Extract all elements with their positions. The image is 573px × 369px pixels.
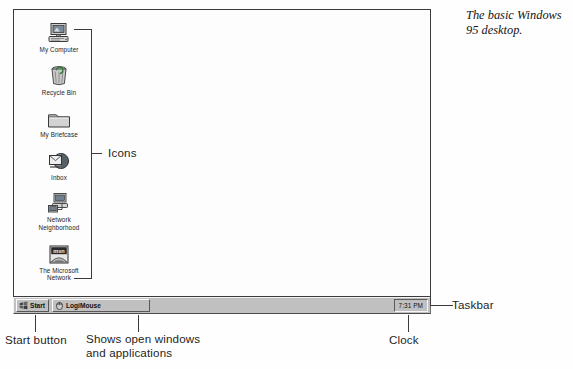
annotation-task-area: Shows open windows and applications — [86, 332, 200, 359]
leader-clock — [408, 315, 409, 332]
task-button-logimouse[interactable]: LogiMouse — [52, 299, 150, 312]
task-button-label: LogiMouse — [66, 302, 101, 309]
annotation-start-button: Start button — [5, 333, 67, 347]
leader-task-area — [138, 315, 139, 332]
icons-callout-tick — [91, 153, 102, 154]
annotation-taskbar: Taskbar — [452, 298, 494, 312]
start-button[interactable]: Start — [16, 299, 49, 312]
start-button-label: Start — [30, 302, 45, 309]
windows-desktop: My Computer Recycle Bin — [13, 9, 431, 297]
svg-text:msn: msn — [53, 248, 65, 254]
annotation-clock: Clock — [389, 333, 419, 347]
taskbar: Start LogiMouse 7:31 PM — [13, 297, 431, 314]
windows-flag-icon — [19, 301, 28, 310]
logimouse-icon — [55, 301, 64, 310]
leader-taskbar-horizontal — [430, 305, 453, 306]
figure-page: My Computer Recycle Bin — [0, 0, 573, 369]
leader-start-button — [35, 315, 36, 332]
taskbar-clock[interactable]: 7:31 PM — [399, 302, 424, 309]
system-tray[interactable]: 7:31 PM — [394, 299, 429, 312]
figure-caption: The basic Windows 95 desktop. — [466, 8, 570, 37]
annotation-icons: Icons — [108, 146, 137, 160]
